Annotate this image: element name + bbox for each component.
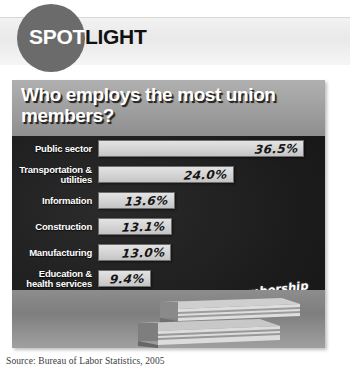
bar-row: Construction13.1%	[12, 216, 325, 238]
brand-prefix: SPOT	[29, 25, 85, 48]
bar-fill: 13.6%	[98, 192, 175, 209]
bar-row-label-line-1: Information	[12, 196, 92, 206]
bar-row-label: Education &health services	[12, 269, 98, 289]
bar-row: Transportation &utilities24.0%	[12, 164, 325, 186]
bar-fill: 24.0%	[98, 166, 234, 183]
bar-value-label: 13.0%	[121, 245, 171, 260]
bar-track: 9.4%	[98, 268, 325, 290]
bar-value-label: 9.4%	[109, 271, 150, 286]
chart-graphic: Who employs the most union members? Publ…	[12, 80, 325, 348]
bar-row-label-line-1: Public sector	[12, 144, 92, 154]
bar-track: 24.0%	[98, 164, 325, 186]
bar-track: 13.0%	[98, 242, 325, 264]
bar-row: Public sector36.5%	[12, 138, 325, 160]
bar-track: 13.6%	[98, 190, 325, 212]
bar-fill: 13.0%	[98, 244, 171, 261]
bar-fill: 13.1%	[98, 218, 172, 235]
bar-row-label: Manufacturing	[12, 248, 98, 258]
bar-row-label-line-1: Construction	[12, 222, 92, 232]
bar-row-label-line-2: utilities	[12, 175, 92, 185]
bar-row: Manufacturing13.0%	[12, 242, 325, 264]
source-caption: Source: Bureau of Labor Statistics, 2005	[6, 356, 165, 366]
bar-row-label: Information	[12, 196, 98, 206]
bar-value-label: 13.1%	[122, 219, 172, 234]
spotlight-header: SPOTLIGHT	[0, 0, 350, 76]
stacked-books-illustration	[132, 290, 317, 348]
chart-title: Who employs the most union members?	[21, 84, 321, 127]
bar-row-label-line-1: Manufacturing	[12, 248, 92, 258]
brand-suffix: LIGHT	[85, 25, 147, 48]
bar-fill: 9.4%	[98, 270, 151, 287]
bar-row-label: Construction	[12, 222, 98, 232]
bar-track: 13.1%	[98, 216, 325, 238]
bar-row-label: Public sector	[12, 144, 98, 154]
bar-value-label: 24.0%	[183, 167, 233, 182]
spotlight-wordmark: SPOTLIGHT	[29, 26, 146, 47]
bar-row: Information13.6%	[12, 190, 325, 212]
bar-row-label: Transportation &utilities	[12, 165, 98, 185]
bar-track: 36.5%	[98, 138, 325, 160]
desk-surface	[12, 290, 325, 348]
bar-value-label: 13.6%	[124, 193, 174, 208]
bar-row-label-line-2: health services	[12, 279, 92, 289]
bar-row: Education &health services9.4%	[12, 268, 325, 290]
bar-fill: 36.5%	[98, 140, 304, 157]
chart-title-plate: Who employs the most union members?	[12, 80, 325, 136]
bar-value-label: 36.5%	[254, 141, 304, 156]
